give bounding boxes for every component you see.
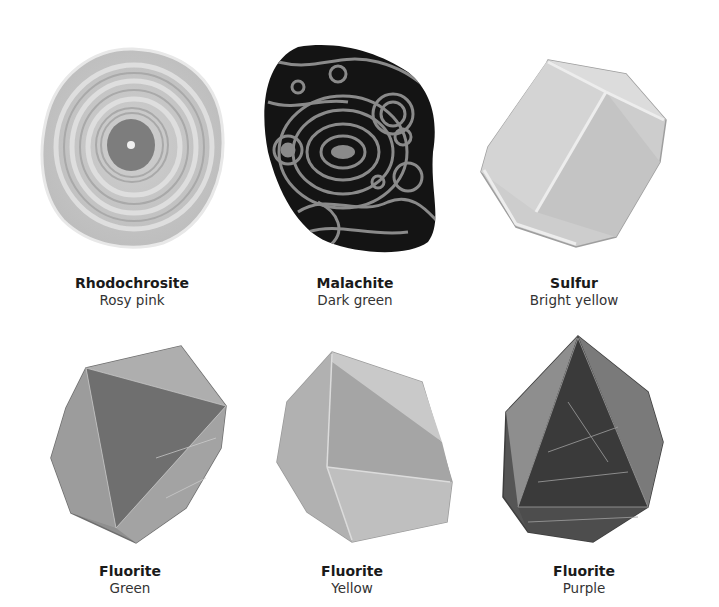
mineral-name: Fluorite xyxy=(484,563,684,580)
mineral-color: Yellow xyxy=(252,580,452,597)
mineral-name: Sulfur xyxy=(474,275,674,292)
mineral-name: Fluorite xyxy=(252,563,452,580)
caption-rhodochrosite: Rhodochrosite Rosy pink xyxy=(32,275,232,309)
mineral-name: Fluorite xyxy=(30,563,230,580)
mineral-color: Green xyxy=(30,580,230,597)
malachite-illustration xyxy=(258,42,448,257)
mineral-color: Purple xyxy=(484,580,684,597)
caption-fluorite-green: Fluorite Green xyxy=(30,563,230,597)
mineral-name: Malachite xyxy=(255,275,455,292)
mineral-name: Rhodochrosite xyxy=(32,275,232,292)
mineral-color: Rosy pink xyxy=(32,292,232,309)
mineral-color: Bright yellow xyxy=(474,292,674,309)
fluorite-green-illustration xyxy=(46,338,246,550)
mineral-color: Dark green xyxy=(255,292,455,309)
caption-sulfur: Sulfur Bright yellow xyxy=(474,275,674,309)
caption-fluorite-purple: Fluorite Purple xyxy=(484,563,684,597)
fluorite-purple-illustration xyxy=(498,332,668,547)
fluorite-yellow-illustration xyxy=(272,342,462,547)
sulfur-illustration xyxy=(476,52,676,252)
rhodochrosite-illustration xyxy=(38,45,228,250)
caption-fluorite-yellow: Fluorite Yellow xyxy=(252,563,452,597)
caption-malachite: Malachite Dark green xyxy=(255,275,455,309)
